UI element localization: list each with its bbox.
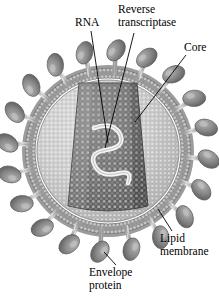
label-envelope-protein: Envelope protein — [89, 266, 132, 291]
envelope-protein — [19, 72, 48, 101]
label-reverse-transcriptase-line1: Reverse — [118, 3, 176, 16]
envelope-protein — [46, 53, 67, 85]
label-lipid-membrane-line2: membrane — [160, 245, 209, 258]
label-reverse-transcriptase: Reverse transcriptase — [118, 3, 176, 28]
hiv-virion-figure: RNA Reverse transcriptase Core Lipid mem… — [0, 0, 219, 304]
label-rna: RNA — [75, 16, 99, 29]
envelope-protein — [175, 89, 207, 110]
leader-envelope-protein — [104, 252, 116, 265]
envelope-protein — [29, 210, 58, 239]
label-envelope-protein-line1: Envelope — [89, 266, 132, 279]
envelope-protein — [167, 202, 196, 231]
envelope-protein — [159, 62, 188, 91]
label-lipid-membrane-line1: Lipid — [160, 232, 209, 245]
envelope-protein — [10, 192, 42, 213]
label-reverse-transcriptase-line2: transcriptase — [118, 16, 176, 29]
label-lipid-membrane: Lipid membrane — [160, 232, 209, 257]
label-core: Core — [184, 41, 206, 54]
label-envelope-protein-line2: protein — [89, 279, 132, 292]
